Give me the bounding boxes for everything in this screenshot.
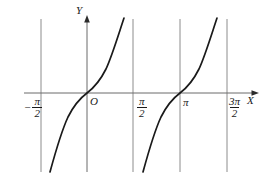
neg-half-pi-group: − π 2 xyxy=(24,96,42,119)
fraction-numerator: π xyxy=(138,96,146,107)
minus-sign: − xyxy=(24,102,31,113)
fraction-denominator: 2 xyxy=(32,107,42,119)
fraction-neg-half-pi: π 2 xyxy=(32,96,42,119)
fraction-half-pi: π 2 xyxy=(137,96,147,119)
y-axis-arrow-icon xyxy=(84,15,90,23)
x-tick-pi: π xyxy=(183,97,189,108)
x-axis-label: X xyxy=(247,95,254,106)
plot-svg xyxy=(0,0,267,189)
tangent-graph-figure: Y X O − π 2 π 2 π 3π 2 xyxy=(0,0,267,189)
fraction-three-half-pi: 3π 2 xyxy=(228,96,241,119)
fraction-denominator: 2 xyxy=(230,107,240,119)
origin-label: O xyxy=(90,96,98,107)
fraction-denominator: 2 xyxy=(137,107,147,119)
y-axis-label: Y xyxy=(76,5,82,16)
fraction-numerator: 3π xyxy=(228,96,241,107)
x-tick-half-pi: π 2 xyxy=(137,96,147,119)
x-tick-three-half-pi: 3π 2 xyxy=(228,96,241,119)
x-tick-neg-half-pi: − π 2 xyxy=(24,96,42,119)
fraction-numerator: π xyxy=(33,96,41,107)
